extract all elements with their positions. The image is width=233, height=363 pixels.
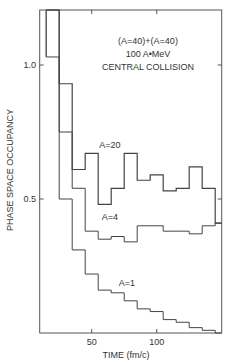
x-tick-label-50: 50 — [87, 337, 97, 347]
x-axis-label: TIME (fm/c) — [103, 350, 150, 360]
label-a20: A=20 — [99, 140, 120, 150]
label-a1: A=1 — [119, 278, 135, 288]
x-tick-label-100: 100 — [149, 337, 164, 347]
label-a4: A=4 — [102, 212, 118, 222]
y-tick-label-0: 0.5 — [23, 194, 36, 204]
y-tick-label-1: 1.0 — [23, 60, 36, 70]
y-axis-label: PHASE SPACE OCCUPANCY — [5, 109, 15, 231]
chart: (A=40)+(A=40) 100 A•MeV CENTRAL COLLISIO… — [0, 0, 233, 363]
title-line-2: 100 A•MeV — [126, 49, 171, 59]
title-line-3: CENTRAL COLLISION — [102, 62, 194, 72]
title-line-1: (A=40)+(A=40) — [118, 36, 178, 46]
